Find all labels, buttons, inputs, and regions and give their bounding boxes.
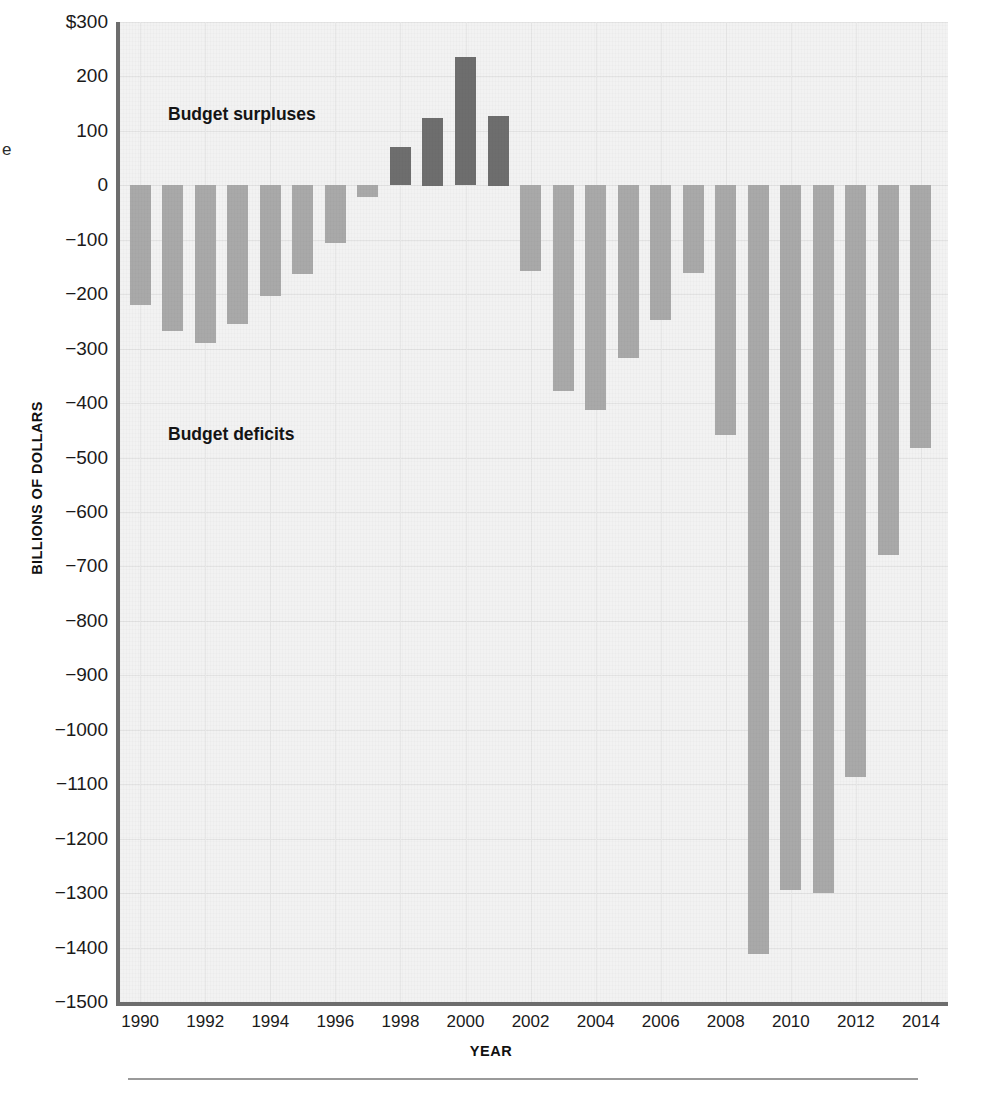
- bar-2002: [520, 185, 541, 271]
- x-tick-1998: 1998: [365, 1012, 435, 1032]
- y-tick--1100: −1100: [22, 773, 108, 795]
- bar-1990: [130, 185, 151, 305]
- y-tick--1200: −1200: [22, 828, 108, 850]
- gridline-vertical: [140, 22, 141, 1002]
- stray-page-glyph: e: [2, 140, 11, 160]
- y-tick--1000: −1000: [22, 719, 108, 741]
- chart-plot-area: [120, 22, 948, 1002]
- gridline-vertical: [335, 22, 336, 1002]
- gridline-vertical: [531, 22, 532, 1002]
- bar-2008: [715, 185, 736, 435]
- x-tick-2014: 2014: [886, 1012, 956, 1032]
- bar-2011: [813, 185, 834, 893]
- gridline-vertical: [921, 22, 922, 1002]
- x-tick-1990: 1990: [105, 1012, 175, 1032]
- bar-1991: [162, 185, 183, 331]
- bar-1999: [422, 118, 443, 186]
- bar-2006: [650, 185, 671, 320]
- y-tick--100: −100: [22, 229, 108, 251]
- gridline-vertical: [661, 22, 662, 1002]
- x-tick-1996: 1996: [300, 1012, 370, 1032]
- x-tick-2000: 2000: [431, 1012, 501, 1032]
- bar-1998: [390, 147, 411, 185]
- y-axis-title: BILLIONS OF DOLLARS: [29, 358, 45, 618]
- gridline-horizontal: [120, 131, 948, 132]
- bar-1992: [195, 185, 216, 343]
- x-tick-1994: 1994: [235, 1012, 305, 1032]
- bar-1993: [227, 185, 248, 324]
- budget-surplus-deficit-figure: e $3002001000−100−200−300−400−500−600−70…: [0, 0, 982, 1097]
- gridline-vertical: [726, 22, 727, 1002]
- gridline-vertical: [205, 22, 206, 1002]
- bar-2000: [455, 57, 476, 185]
- x-tick-1992: 1992: [170, 1012, 240, 1032]
- y-tick-0: 0: [22, 174, 108, 196]
- y-tick--300: −300: [22, 338, 108, 360]
- y-tick--1400: −1400: [22, 937, 108, 959]
- bar-2010: [780, 185, 801, 890]
- gridline-horizontal: [120, 893, 948, 894]
- bar-1994: [260, 185, 281, 296]
- bar-2004: [585, 185, 606, 410]
- footer-divider: [128, 1078, 918, 1080]
- y-tick--1300: −1300: [22, 882, 108, 904]
- bar-2003: [553, 185, 574, 391]
- x-tick-2008: 2008: [691, 1012, 761, 1032]
- gridline-horizontal: [120, 22, 948, 23]
- gridline-vertical: [270, 22, 271, 1002]
- y-tick--1500: −1500: [22, 991, 108, 1013]
- bar-2005: [618, 185, 639, 358]
- bar-2013: [878, 185, 899, 555]
- x-tick-2010: 2010: [756, 1012, 826, 1032]
- x-tick-2002: 2002: [496, 1012, 566, 1032]
- bar-2007: [683, 185, 704, 273]
- y-tick--900: −900: [22, 664, 108, 686]
- deficit-label: Budget deficits: [168, 424, 294, 445]
- bar-1995: [292, 185, 313, 274]
- bar-1997: [357, 185, 378, 197]
- x-axis-title: YEAR: [0, 1043, 982, 1059]
- bar-2014: [910, 185, 931, 448]
- y-tick-100: 100: [22, 120, 108, 142]
- y-tick-300: $300: [22, 11, 108, 33]
- x-tick-2006: 2006: [626, 1012, 696, 1032]
- bar-2001: [488, 116, 509, 186]
- gridline-horizontal: [120, 76, 948, 77]
- y-axis-line: [116, 22, 120, 1004]
- x-axis-line: [116, 1002, 948, 1006]
- bar-1996: [325, 185, 346, 243]
- bar-2009: [748, 185, 769, 954]
- surplus-label: Budget surpluses: [168, 104, 316, 125]
- bar-2012: [845, 185, 866, 777]
- gridline-vertical: [596, 22, 597, 1002]
- y-tick--200: −200: [22, 283, 108, 305]
- x-tick-2004: 2004: [561, 1012, 631, 1032]
- x-tick-2012: 2012: [821, 1012, 891, 1032]
- y-tick-200: 200: [22, 65, 108, 87]
- gridline-horizontal: [120, 948, 948, 949]
